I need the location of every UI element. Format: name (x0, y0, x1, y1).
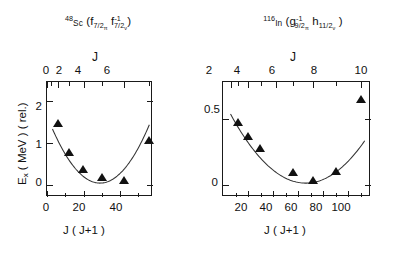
y-axis-tick (365, 119, 371, 120)
left-x-tick-label-40: 40 (105, 201, 127, 213)
bottom-axis-tick (323, 191, 324, 197)
orbital-2-subsub-right: ν (333, 25, 336, 31)
paren-close-right: ) (339, 15, 343, 27)
right-x-tick-label-20: 20 (230, 201, 252, 213)
right-top-tick-label-8: 8 (306, 64, 322, 76)
top-axis-tick (149, 82, 150, 86)
left-top-tick-label-6: 6 (99, 64, 115, 76)
bottom-axis-tick (286, 193, 287, 197)
orbital-2-right: h11/2ν (312, 15, 335, 27)
left-x-axis-title: J ( J+1 ) (63, 224, 105, 236)
right-top-tick-label-6: 6 (264, 64, 280, 76)
right-x-tick-label-40: 40 (255, 201, 277, 213)
left-top-axis-title: J (92, 50, 98, 64)
right-top-axis-title: J (290, 50, 296, 64)
right-top-tick-label-4: 4 (229, 64, 245, 76)
panel-right: 116In (g-19/2π h11/2ν ) J 2 4 6 8 10 0.5… (196, 0, 410, 258)
orbital-1-sub-right: 9/2 (295, 21, 305, 30)
y-axis-tick (223, 185, 229, 186)
mass-number-right: 116 (263, 14, 275, 23)
orbital-2-sub-right: 11/2 (319, 21, 333, 30)
bottom-axis-tick (298, 191, 299, 197)
top-axis-tick (47, 82, 48, 88)
panel-left: 48Sc (f7/2π f-17/2ν) J 0 2 4 6 2 1 0 0 2… (0, 0, 196, 258)
left-plot-frame (46, 81, 152, 196)
y-axis-tick (147, 143, 153, 144)
right-x-tick-label-80: 80 (305, 201, 327, 213)
top-axis-tick (231, 82, 232, 88)
y-axis-tick (47, 185, 53, 186)
top-axis-tick (336, 82, 337, 86)
bottom-axis-tick (273, 191, 274, 197)
right-y-tick-label-05: 0.5 (190, 103, 220, 115)
bottom-axis-tick (248, 191, 249, 197)
bottom-axis-tick (336, 193, 337, 197)
panel-left-title: 48Sc (f7/2π f-17/2ν) (0, 14, 196, 31)
data-point-marker (64, 148, 74, 156)
left-top-tick-label-4: 4 (70, 64, 86, 76)
orbital-1-subsub: π (104, 25, 108, 31)
data-point-marker (97, 173, 107, 181)
left-y-axis-title: Ex ( MeV ) ( rel.) (16, 102, 30, 185)
orbital-1: f7/2π (90, 15, 108, 27)
bottom-axis-tick (311, 193, 312, 197)
top-axis-tick (102, 82, 103, 86)
y-axis-tick (223, 119, 229, 120)
left-x-tick-label-0: 0 (38, 201, 54, 213)
y-axis-tick (47, 143, 53, 144)
panel-right-title: 116In (g-19/2π h11/2ν ) (196, 14, 410, 31)
top-axis-tick (248, 82, 249, 88)
data-point-marker (255, 144, 265, 152)
bottom-axis-tick (65, 193, 66, 197)
top-axis-tick (124, 82, 125, 88)
bottom-axis-tick (120, 191, 121, 197)
bottom-axis-tick (236, 193, 237, 197)
right-x-tick-label-100: 100 (328, 201, 354, 213)
y-axis-tick (47, 101, 53, 102)
orbital-2: f-17/2ν (111, 15, 127, 27)
right-top-tick-label-10: 10 (351, 64, 371, 76)
top-axis-tick (238, 82, 239, 86)
orbital-1-sub: 7/2 (94, 21, 104, 30)
bottom-axis-tick (102, 193, 103, 197)
right-y-tick-label-0: 0 (200, 176, 218, 188)
right-x-tick-label-60: 60 (280, 201, 302, 213)
y-axis-tick (147, 101, 153, 102)
bottom-axis-tick (47, 191, 48, 197)
bottom-axis-tick (138, 193, 139, 197)
top-axis-tick (276, 82, 277, 88)
figure-root: 48Sc (f7/2π f-17/2ν) J 0 2 4 6 2 1 0 0 2… (0, 0, 410, 258)
y-axis-tick (365, 185, 371, 186)
y-axis-tick (147, 185, 153, 186)
element-symbol: Sc (73, 18, 83, 28)
data-point-marker (331, 167, 341, 175)
bottom-axis-tick (361, 193, 362, 197)
data-point-marker (233, 118, 243, 126)
data-point-marker (308, 176, 318, 184)
top-axis-tick (261, 82, 262, 86)
top-axis-tick (293, 82, 294, 86)
left-top-tick-label-2: 2 (51, 64, 67, 76)
data-point-marker (119, 176, 129, 184)
paren-close: ) (127, 15, 131, 27)
right-plot-frame (222, 81, 370, 196)
top-axis-tick (313, 82, 314, 88)
data-point-marker (78, 165, 88, 173)
top-axis-tick (58, 82, 59, 88)
right-x-axis-title: J ( J+1 ) (264, 224, 306, 236)
top-axis-tick (51, 82, 52, 86)
top-axis-tick (84, 82, 85, 88)
top-axis-tick (69, 82, 70, 86)
bottom-axis-tick (261, 193, 262, 197)
bottom-axis-tick (84, 191, 85, 197)
orbital-1-right: g-19/2π (289, 15, 308, 27)
mass-number: 48 (65, 14, 73, 23)
data-point-marker (288, 168, 298, 176)
bottom-axis-tick (348, 191, 349, 197)
orbital-1-subsub-right: π (305, 25, 309, 31)
element-symbol-right: In (275, 18, 282, 28)
data-point-marker (356, 95, 366, 103)
data-point-marker (243, 132, 253, 140)
data-point-marker (53, 119, 63, 127)
left-x-tick-label-20: 20 (68, 201, 90, 213)
